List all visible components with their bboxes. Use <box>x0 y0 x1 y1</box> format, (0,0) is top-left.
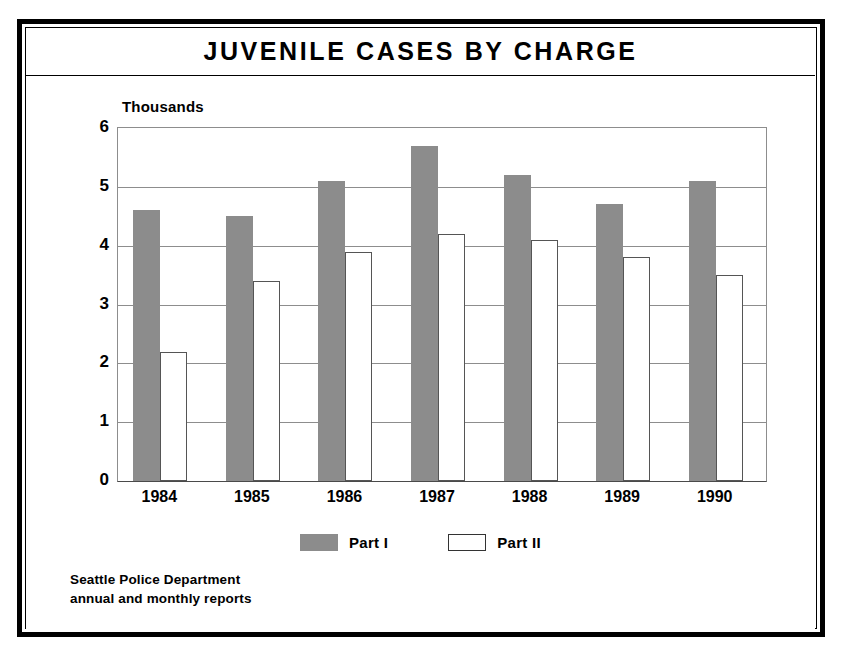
bar-1984-part-1 <box>133 210 160 481</box>
source-note: Seattle Police Department annual and mon… <box>70 571 252 608</box>
bar-1986-part-1 <box>318 181 345 481</box>
bar-1989-part-2 <box>623 257 650 481</box>
legend-item-part-1: Part I <box>300 534 388 551</box>
chart-body: Thousands 0123456 1984198519861987198819… <box>26 76 815 629</box>
x-axis-tick-label-1990: 1990 <box>675 488 755 506</box>
y-axis-tick-label: 4 <box>100 236 109 253</box>
bar-1988-part-1 <box>504 175 531 481</box>
y-axis-tick-labels: 0123456 <box>76 127 109 480</box>
chart-screenshot: JUVENILE CASES BY CHARGE Thousands 01234… <box>0 0 844 662</box>
bar-1990-part-2 <box>716 275 743 481</box>
y-axis-tick-label: 5 <box>100 177 109 194</box>
bar-1984-part-2 <box>160 352 187 481</box>
bar-1990-part-1 <box>689 181 716 481</box>
legend-swatch-part-1 <box>300 534 338 551</box>
bar-1987-part-1 <box>411 146 438 481</box>
bar-1986-part-2 <box>345 252 372 481</box>
bar-1987-part-2 <box>438 234 465 481</box>
bar-1989-part-1 <box>596 204 623 481</box>
y-axis-tick-label: 2 <box>100 353 109 370</box>
x-axis-tick-label-1989: 1989 <box>582 488 662 506</box>
y-axis-tick-label: 3 <box>100 295 109 312</box>
legend-label: Part II <box>497 534 541 551</box>
y-axis-tick-label: 0 <box>100 471 109 488</box>
legend-item-part-2: Part II <box>448 534 541 551</box>
source-line-2: annual and monthly reports <box>70 590 252 609</box>
x-axis-tick-label-1988: 1988 <box>490 488 570 506</box>
chart-title: JUVENILE CASES BY CHARGE <box>203 37 637 66</box>
x-axis-tick-label-1985: 1985 <box>212 488 292 506</box>
bar-1985-part-2 <box>253 281 280 481</box>
legend-label: Part I <box>349 534 388 551</box>
y-axis-unit-label: Thousands <box>122 98 204 115</box>
y-axis-tick-label: 1 <box>100 412 109 429</box>
chart-legend: Part IPart II <box>26 534 815 551</box>
source-line-1: Seattle Police Department <box>70 571 252 590</box>
gridline <box>118 187 766 188</box>
x-axis-tick-label-1986: 1986 <box>304 488 384 506</box>
x-axis-tick-label-1987: 1987 <box>397 488 477 506</box>
y-axis-tick-label: 6 <box>100 118 109 135</box>
x-axis-tick-label-1984: 1984 <box>119 488 199 506</box>
chart-title-band: JUVENILE CASES BY CHARGE <box>26 28 815 76</box>
legend-swatch-part-2 <box>448 534 486 551</box>
bar-1985-part-1 <box>226 216 253 481</box>
bar-1988-part-2 <box>531 240 558 481</box>
plot-area <box>117 127 767 482</box>
